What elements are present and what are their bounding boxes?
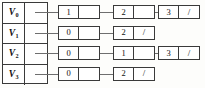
list-node: 2 / <box>113 67 155 81</box>
list-node: 1 <box>113 46 155 60</box>
vertex-pointer-cell-3 <box>25 65 47 86</box>
list-node: 3 / <box>158 46 200 60</box>
table-row: V0 <box>3 3 47 24</box>
vertex-label-cell-2: V2 <box>3 44 25 64</box>
connector-row2-head <box>35 53 58 54</box>
vertex-label-1: V1 <box>9 29 18 39</box>
node-data: 0 <box>59 68 79 80</box>
node-data: 1 <box>59 6 79 18</box>
node-data: 2 <box>114 6 134 18</box>
table-row: V3 <box>3 65 47 86</box>
vertex-label-cell-0: V0 <box>3 3 25 23</box>
node-link <box>79 6 99 18</box>
vertex-label-2: V2 <box>9 49 18 59</box>
node-data: 3 <box>159 47 179 59</box>
list-node: 3 / <box>158 5 200 19</box>
table-row: V2 <box>3 44 47 65</box>
node-link-null: / <box>134 68 154 80</box>
vertex-label-cell-1: V1 <box>3 24 25 44</box>
node-link <box>134 6 154 18</box>
vertex-table: V0 V1 V2 V3 <box>2 2 48 84</box>
connector-row2-1 <box>100 53 113 54</box>
vertex-label-cell-3: V3 <box>3 65 25 86</box>
list-node: 1 <box>58 5 100 19</box>
node-link-null: / <box>134 27 154 39</box>
node-data: 0 <box>59 47 79 59</box>
node-data: 0 <box>59 27 79 39</box>
list-node: 2 / <box>113 26 155 40</box>
node-link <box>79 68 99 80</box>
list-node: 2 <box>113 5 155 19</box>
connector-row0-1 <box>100 12 113 13</box>
adjacency-list-diagram: V0 V1 V2 V3 1 2 <box>0 0 205 88</box>
connector-row3-head <box>35 74 58 75</box>
node-link <box>79 47 99 59</box>
node-data: 2 <box>114 68 134 80</box>
connector-row1-1 <box>100 33 113 34</box>
node-link <box>134 47 154 59</box>
table-row: V1 <box>3 24 47 45</box>
vertex-label-3: V3 <box>9 70 18 80</box>
node-link-null: / <box>179 6 199 18</box>
list-node: 0 <box>58 67 100 81</box>
node-link <box>79 27 99 39</box>
list-node: 0 <box>58 26 100 40</box>
connector-row3-1 <box>100 74 113 75</box>
node-data: 1 <box>114 47 134 59</box>
connector-row1-head <box>35 33 58 34</box>
node-data: 3 <box>159 6 179 18</box>
node-link-null: / <box>179 47 199 59</box>
connector-row0-head <box>35 12 58 13</box>
list-node: 0 <box>58 46 100 60</box>
vertex-label-0: V0 <box>9 8 18 18</box>
node-data: 2 <box>114 27 134 39</box>
